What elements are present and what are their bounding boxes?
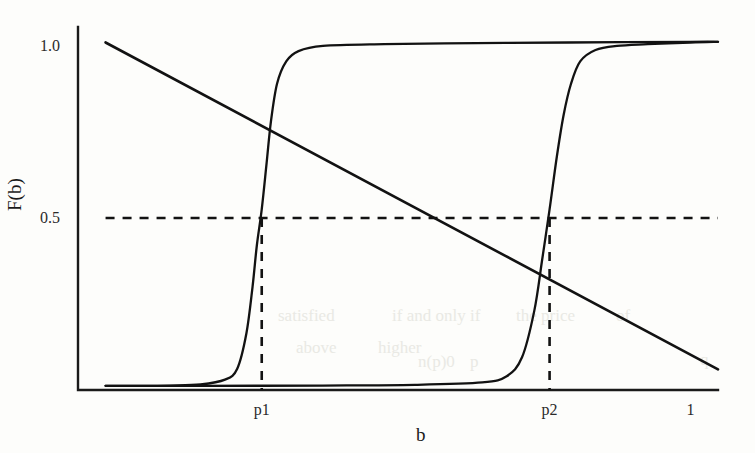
chart-axes [78,27,718,390]
y-tick-label-0.5: 0.5 [40,209,60,227]
y-tick-label-1.0: 1.0 [40,37,60,55]
curve-cdf-low-threshold [106,42,718,386]
x-tick-label-p1: p1 [254,401,270,419]
y-axis-title: F(b) [4,178,26,211]
x-axis-title: b [416,424,426,446]
chart-figure: satisfiedif and only ifthe priceofaboveh… [0,0,755,453]
x-tick-label-p2: p2 [542,401,558,419]
curve-cdf-high-threshold [106,42,718,386]
x-tick-label-1: 1 [686,401,694,419]
chart-plot-area [0,0,755,453]
curve-demand-line [106,42,718,369]
